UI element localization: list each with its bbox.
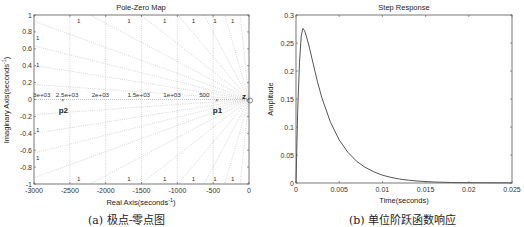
svg-text:1: 1 <box>231 175 235 182</box>
svg-text:1.5e+03: 1.5e+03 <box>128 91 151 98</box>
pz-markers: ×p1×p2z <box>59 92 253 115</box>
svg-text:-1000: -1000 <box>168 187 186 194</box>
svg-text:-0.8: -0.8 <box>20 164 32 171</box>
svg-text:-0.6: -0.6 <box>20 147 32 154</box>
step-response: Step Response 00.0050.010.0150.020.02500… <box>266 3 521 205</box>
sr-curve <box>296 28 512 183</box>
svg-text:-0.2: -0.2 <box>20 113 32 120</box>
svg-text:1: 1 <box>127 175 131 182</box>
svg-text:1: 1 <box>192 175 196 182</box>
figure: Pole-Zero Map 3e+032.5e+032e+031.5e+031e… <box>0 0 524 227</box>
svg-text:p1: p1 <box>213 106 223 115</box>
svg-text:0.2: 0.2 <box>284 68 294 75</box>
svg-text:1: 1 <box>127 17 131 24</box>
svg-text:0.8: 0.8 <box>22 28 32 35</box>
svg-text:2.5e+03: 2.5e+03 <box>56 91 79 98</box>
svg-text:0.05: 0.05 <box>280 152 294 159</box>
svg-text:z: z <box>242 92 246 101</box>
svg-text:-0.4: -0.4 <box>20 130 32 137</box>
pz-xlabel: Real Axis(seconds-1) <box>106 197 176 207</box>
svg-text:1: 1 <box>231 17 235 24</box>
svg-text:0.6: 0.6 <box>22 45 32 52</box>
svg-text:0: 0 <box>247 187 251 194</box>
sr-title: Step Response <box>378 3 429 12</box>
svg-text:p2: p2 <box>59 106 69 115</box>
svg-text:1: 1 <box>77 175 81 182</box>
svg-text:1: 1 <box>163 175 167 182</box>
svg-text:-2500: -2500 <box>61 187 79 194</box>
svg-text:-2000: -2000 <box>97 187 115 194</box>
svg-text:0: 0 <box>290 180 294 187</box>
svg-text:-500: -500 <box>206 187 220 194</box>
svg-text:0.01: 0.01 <box>376 186 390 193</box>
svg-text:1e+03: 1e+03 <box>163 91 181 98</box>
svg-text:0.3: 0.3 <box>284 12 294 19</box>
svg-text:0.015: 0.015 <box>417 186 435 193</box>
pz-ticks: -3000-2500-2000-1500-1000-5000-1-0.8-0.6… <box>20 12 251 195</box>
svg-text:1: 1 <box>36 61 40 68</box>
svg-text:0.1: 0.1 <box>284 124 294 131</box>
svg-text:1: 1 <box>36 34 40 41</box>
caption-b: (b) 单位阶跃函数响应 <box>349 211 456 227</box>
svg-text:×: × <box>215 97 218 103</box>
svg-text:0.025: 0.025 <box>503 186 521 193</box>
svg-text:1: 1 <box>213 17 217 24</box>
svg-text:0.15: 0.15 <box>280 96 294 103</box>
pz-ylabel: Imaginary Axis(seconds-1) <box>1 56 11 143</box>
svg-text:-3000: -3000 <box>25 187 43 194</box>
svg-text:500: 500 <box>199 91 210 98</box>
svg-text:-1500: -1500 <box>133 187 151 194</box>
svg-text:×: × <box>61 97 64 103</box>
svg-text:-1: -1 <box>26 181 32 188</box>
sr-axes-box <box>296 15 512 183</box>
svg-text:0.02: 0.02 <box>462 186 476 193</box>
svg-text:0.4: 0.4 <box>22 62 32 69</box>
caption-a: (a) 极点-零点图 <box>88 211 165 227</box>
svg-text:1: 1 <box>77 17 81 24</box>
svg-text:1: 1 <box>213 175 217 182</box>
svg-text:1: 1 <box>163 17 167 24</box>
svg-text:1: 1 <box>28 12 32 19</box>
svg-text:2e+03: 2e+03 <box>92 91 110 98</box>
pole-zero-map: Pole-Zero Map 3e+032.5e+032e+031.5e+031e… <box>1 3 253 207</box>
svg-text:0: 0 <box>28 96 32 103</box>
sr-xlabel: Time(seconds) <box>379 196 429 205</box>
svg-text:1: 1 <box>36 126 40 133</box>
svg-text:3e+03: 3e+03 <box>33 91 51 98</box>
svg-text:1: 1 <box>36 154 40 161</box>
sr-ylabel: Amplitude <box>266 82 275 115</box>
svg-text:0.2: 0.2 <box>22 79 32 86</box>
pz-title: Pole-Zero Map <box>116 3 166 12</box>
svg-text:1: 1 <box>192 17 196 24</box>
svg-text:0.005: 0.005 <box>330 186 348 193</box>
svg-text:0: 0 <box>294 186 298 193</box>
sr-ticks: 00.0050.010.0150.020.02500.050.10.150.20… <box>280 12 520 194</box>
svg-text:0.25: 0.25 <box>280 40 294 47</box>
